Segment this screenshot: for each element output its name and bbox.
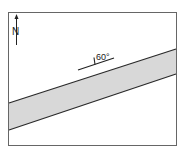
north-label: N	[12, 26, 19, 37]
geologic-map-diagram: N 60°	[0, 0, 185, 159]
dip-angle-label: 60°	[96, 52, 110, 62]
